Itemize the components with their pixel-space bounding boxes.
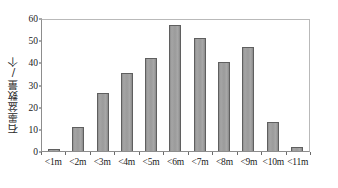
x-axis-tick-mark	[261, 152, 262, 155]
bar[interactable]	[267, 122, 279, 151]
bar-slot	[285, 20, 309, 151]
plot-area	[41, 19, 310, 152]
bar[interactable]	[48, 149, 60, 151]
bar[interactable]	[97, 93, 109, 151]
bar-slot	[42, 20, 66, 151]
bar[interactable]	[242, 47, 254, 151]
y-axis-tick-label: 30	[29, 81, 39, 91]
x-axis-tick-mark	[310, 152, 311, 155]
y-axis-tick-label: 20	[29, 103, 39, 113]
bar-slot	[260, 20, 284, 151]
bar-slot	[212, 20, 236, 151]
y-axis-tick-label: 10	[29, 125, 39, 135]
x-axis-tick-label: <1m	[41, 157, 65, 167]
x-axis-tick-label: <6m	[163, 157, 187, 167]
x-axis-tick-label: <5m	[139, 157, 163, 167]
x-axis-tick-mark	[237, 152, 238, 155]
bar[interactable]	[194, 38, 206, 151]
x-axis-tick-mark	[163, 152, 164, 155]
bar-slot	[188, 20, 212, 151]
x-axis-tick-label: <8m	[212, 157, 236, 167]
bar[interactable]	[218, 62, 230, 151]
bar-slot	[115, 20, 139, 151]
bar[interactable]	[121, 73, 133, 151]
x-axis-tick-label: <4m	[114, 157, 138, 167]
x-axis-tick-label: <7m	[188, 157, 212, 167]
y-axis-tick-labels: 0102030405060	[20, 13, 38, 153]
x-axis-tick-label: <3m	[90, 157, 114, 167]
x-axis-tick-marks	[41, 152, 310, 156]
x-axis-tick-label: <10m	[261, 157, 285, 167]
x-axis-tick-label: <11m	[286, 157, 310, 167]
bar-slot	[163, 20, 187, 151]
bars-container	[42, 20, 309, 151]
x-axis-tick-mark	[139, 152, 140, 155]
y-axis-tick-label: 40	[29, 58, 39, 68]
y-axis-tick-label: 60	[29, 14, 39, 24]
x-axis-tick-mark	[286, 152, 287, 155]
x-axis-tick-mark	[90, 152, 91, 155]
bar-slot	[66, 20, 90, 151]
bar-chart: 石墨盆数量/个 0102030405060 <1m<2m<3m<4m<5m<6m…	[0, 0, 338, 188]
x-axis-tick-mark	[212, 152, 213, 155]
y-axis-tick-label: 50	[29, 36, 39, 46]
x-axis-tick-mark	[41, 152, 42, 155]
bar-slot	[139, 20, 163, 151]
bar[interactable]	[145, 58, 157, 151]
x-axis-tick-labels: <1m<2m<3m<4m<5m<6m<7m<8m<9m<10m<11m	[41, 157, 310, 177]
x-axis-tick-label: <9m	[237, 157, 261, 167]
y-axis-tick-label: 0	[33, 147, 38, 157]
bar[interactable]	[291, 147, 303, 151]
x-axis-tick-mark	[65, 152, 66, 155]
x-axis-tick-mark	[114, 152, 115, 155]
bar[interactable]	[169, 25, 181, 151]
bar-slot	[91, 20, 115, 151]
x-axis-tick-label: <2m	[65, 157, 89, 167]
bar-slot	[236, 20, 260, 151]
bar[interactable]	[72, 127, 84, 151]
x-axis-tick-mark	[188, 152, 189, 155]
